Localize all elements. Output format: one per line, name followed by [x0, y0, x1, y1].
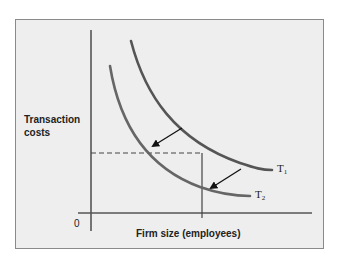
curve-t1 [131, 41, 272, 170]
shift-arrow-lower [211, 169, 241, 188]
curve-label-t1-sub: 1 [284, 168, 288, 176]
curve-label-t2: T2 [255, 188, 265, 202]
y-axis-label: Transaction costs [24, 113, 94, 139]
shift-arrow-upper [153, 128, 182, 146]
curve-label-t2-sub: 2 [262, 194, 266, 202]
origin-label: 0 [74, 218, 80, 229]
x-axis-label: Firm size (employees) [136, 228, 240, 239]
curve-label-t2-main: T [255, 188, 262, 200]
curve-label-t1: T1 [277, 162, 287, 176]
curve-label-t1-main: T [277, 162, 284, 174]
